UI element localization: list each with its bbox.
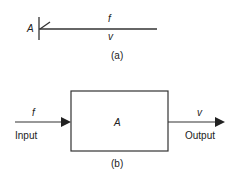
node-a-label: A [27, 24, 34, 34]
input-symbol: f [32, 108, 35, 118]
block-label: A [114, 118, 121, 128]
top-signal-label: f [108, 14, 111, 24]
caption-a: (a) [111, 51, 123, 61]
output-arrowhead-icon [215, 117, 225, 127]
caption-b: (b) [111, 159, 123, 169]
diagram-canvas: A f v (a) A f Input v Output (b) [0, 0, 235, 178]
bottom-signal-label: v [108, 32, 113, 42]
input-label: Input [15, 131, 37, 141]
input-arrowhead-icon [61, 117, 71, 127]
output-label: Output [185, 131, 215, 141]
output-symbol: v [197, 108, 202, 118]
node-a-diagonal-tick [40, 22, 50, 29]
diagram-graphics [0, 0, 235, 178]
